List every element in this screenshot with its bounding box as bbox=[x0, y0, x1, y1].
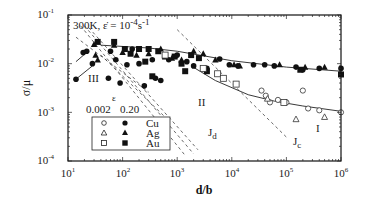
circle-filled-marker bbox=[136, 61, 142, 67]
square-filled-marker bbox=[297, 67, 303, 73]
y-axis-title: σ/μ bbox=[19, 80, 33, 96]
region-label-iii: III bbox=[88, 72, 99, 84]
square-open-marker bbox=[215, 71, 221, 77]
circle-filled-marker bbox=[184, 59, 190, 65]
square-filled-marker bbox=[142, 59, 148, 65]
square-open-marker bbox=[281, 99, 287, 105]
circle-filled-icon bbox=[122, 120, 127, 125]
circle-open-marker bbox=[259, 88, 264, 93]
circle-filled-marker bbox=[316, 66, 322, 72]
condition-label: 300K, ε̇ = 10-4s-1 bbox=[73, 17, 150, 31]
square-filled-marker bbox=[95, 39, 101, 45]
chart: 101 102 103 104 105 106 10-1 10-2 10-3 1… bbox=[0, 0, 367, 201]
legend-header-strain: ε bbox=[112, 93, 116, 103]
square-filled-marker bbox=[149, 73, 155, 79]
legend-column-high-strain: 0.20 bbox=[120, 103, 140, 115]
square-filled-marker bbox=[172, 54, 178, 60]
legend-label-au: Au bbox=[146, 137, 160, 149]
square-open-marker bbox=[220, 75, 226, 81]
circle-filled-marker bbox=[108, 48, 114, 54]
circle-filled-marker bbox=[90, 61, 96, 67]
circle-open-marker bbox=[317, 108, 322, 113]
square-filled-marker bbox=[179, 61, 185, 67]
circle-filled-marker bbox=[117, 80, 123, 86]
region-label-i: I bbox=[316, 122, 320, 134]
square-filled-marker bbox=[155, 48, 161, 54]
square-filled-marker bbox=[111, 39, 117, 45]
x-axis-title: d/b bbox=[196, 183, 213, 197]
square-filled-icon bbox=[122, 140, 127, 145]
region-label-ii: II bbox=[198, 96, 206, 108]
circle-filled-marker bbox=[251, 62, 257, 68]
circle-filled-marker bbox=[271, 63, 277, 69]
circle-filled-marker bbox=[191, 63, 197, 69]
square-open-marker bbox=[162, 52, 168, 58]
square-filled-marker bbox=[196, 55, 202, 61]
circle-filled-marker bbox=[142, 83, 148, 89]
circle-open-marker bbox=[306, 106, 311, 111]
square-filled-marker bbox=[136, 46, 142, 52]
square-filled-marker bbox=[146, 46, 152, 52]
square-filled-marker bbox=[128, 51, 134, 57]
circle-filled-marker bbox=[262, 62, 268, 68]
circle-open-marker bbox=[275, 97, 280, 102]
square-filled-marker bbox=[182, 68, 188, 74]
circle-filled-marker bbox=[84, 48, 90, 54]
circle-filled-marker bbox=[150, 57, 156, 63]
circle-filled-marker bbox=[106, 76, 112, 82]
square-filled-marker bbox=[188, 52, 194, 58]
square-filled-marker bbox=[122, 46, 128, 52]
circle-filled-marker bbox=[113, 57, 119, 63]
legend-column-low-strain: 0.002 bbox=[86, 103, 111, 115]
circle-filled-marker bbox=[158, 78, 164, 84]
circle-filled-marker bbox=[73, 76, 79, 82]
circle-open-marker bbox=[300, 88, 305, 93]
circle-filled-marker bbox=[124, 62, 130, 68]
square-open-marker bbox=[200, 65, 206, 71]
square-open-marker bbox=[233, 81, 239, 87]
